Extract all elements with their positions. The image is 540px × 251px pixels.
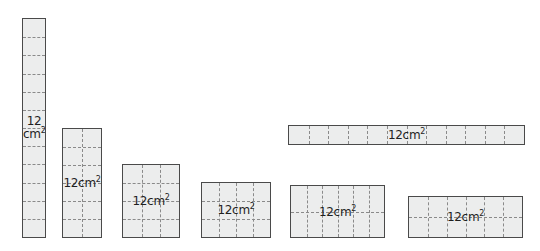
area-label: 12cm2 [289,129,524,142]
grid-line-horizontal [202,219,270,220]
area-rectangle: 12cm2 [288,125,525,145]
figure-canvas: 12cm212cm212cm212cm212cm212cm212cm2 [0,0,540,251]
area-label: 12cm2 [291,205,384,218]
area-label-unit: cm2 [232,203,254,217]
area-rectangle: 12cm2 [201,182,271,238]
area-rectangle: 12cm2 [62,128,102,238]
area-rectangle: 12cm2 [122,164,180,238]
area-label-unit-text: cm [334,204,352,218]
grid-line-horizontal [123,219,179,220]
grid-line-horizontal [23,37,45,38]
grid-line-horizontal [23,74,45,75]
area-rectangle: 12cm2 [22,18,46,238]
grid-line-horizontal [23,146,45,147]
area-label-unit: cm2 [403,128,425,142]
area-label-number: 12 [447,210,462,224]
grid-line-horizontal [63,147,101,148]
area-label-unit: cm2 [78,176,100,190]
area-label-exponent: 2 [41,126,46,135]
area-label-unit-text: cm [147,194,165,208]
area-label-number: 12 [388,128,403,142]
area-rectangle: 12cm2 [290,185,385,238]
grid-line-horizontal [23,183,45,184]
area-label-unit-text: cm [403,128,421,142]
area-label: 12cm2 [202,204,270,217]
area-label: 12cm2 [63,177,101,190]
area-label-exponent: 2 [479,209,484,218]
grid-line-horizontal [63,219,101,220]
grid-line-horizontal [63,201,101,202]
grid-line-horizontal [23,110,45,111]
area-label-unit-text: cm [462,210,480,224]
area-label-unit-text: cm [23,127,41,141]
grid-line-horizontal [23,201,45,202]
area-rectangle: 12cm2 [408,196,523,238]
area-label-unit-text: cm [232,203,250,217]
area-label: 12cm2 [23,115,45,142]
area-label-exponent: 2 [351,203,356,212]
area-label-unit: cm2 [334,204,356,218]
area-label-number: 12 [217,203,232,217]
area-label-number: 12 [319,204,334,218]
grid-line-horizontal [123,183,179,184]
area-label-number: 12 [63,176,78,190]
area-label-unit: cm2 [147,194,169,208]
area-label: 12cm2 [409,211,522,224]
area-label-number: 12 [132,194,147,208]
area-label-exponent: 2 [165,193,170,202]
grid-line-horizontal [23,219,45,220]
grid-line-horizontal [23,164,45,165]
area-label: 12cm2 [123,195,179,208]
area-label-unit: cm2 [23,128,45,141]
grid-line-horizontal [23,92,45,93]
grid-line-horizontal [23,55,45,56]
grid-line-horizontal [63,165,101,166]
area-label-unit: cm2 [462,210,484,224]
area-label-exponent: 2 [250,202,255,211]
area-label-unit-text: cm [78,176,96,190]
area-label-exponent: 2 [420,127,425,136]
area-label-exponent: 2 [96,175,101,184]
